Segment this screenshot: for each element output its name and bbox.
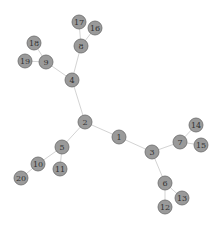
node-label: 2 — [82, 118, 87, 127]
node-label: 19 — [20, 57, 30, 66]
node-1: 1 — [112, 130, 126, 144]
node-label: 6 — [162, 179, 167, 188]
node-layer: 1234567891011121314151617181920 — [14, 15, 208, 214]
node-13: 13 — [175, 191, 189, 205]
node-label: 7 — [177, 138, 182, 147]
edge-layer — [21, 22, 201, 207]
node-17: 17 — [72, 15, 86, 29]
node-2: 2 — [78, 115, 92, 129]
node-9: 9 — [39, 55, 53, 69]
node-19: 19 — [18, 54, 32, 68]
node-6: 6 — [158, 176, 172, 190]
node-label: 1 — [116, 133, 121, 142]
node-label: 16 — [90, 24, 100, 33]
node-18: 18 — [27, 36, 41, 50]
node-3: 3 — [145, 145, 159, 159]
node-5: 5 — [55, 140, 69, 154]
node-16: 16 — [88, 21, 102, 35]
node-label: 17 — [74, 18, 84, 27]
network-graph: 1234567891011121314151617181920 — [0, 0, 223, 230]
node-label: 8 — [78, 42, 83, 51]
node-label: 9 — [43, 58, 48, 67]
node-10: 10 — [31, 157, 45, 171]
node-label: 15 — [196, 141, 206, 150]
node-label: 10 — [33, 160, 43, 169]
node-label: 20 — [16, 174, 26, 183]
node-20: 20 — [14, 171, 28, 185]
node-15: 15 — [194, 138, 208, 152]
node-label: 11 — [55, 165, 65, 174]
node-label: 18 — [29, 39, 39, 48]
node-7: 7 — [173, 135, 187, 149]
node-12: 12 — [158, 200, 172, 214]
node-4: 4 — [65, 73, 79, 87]
node-8: 8 — [74, 39, 88, 53]
node-label: 13 — [177, 194, 187, 203]
node-label: 12 — [160, 203, 170, 212]
node-14: 14 — [189, 118, 203, 132]
node-label: 14 — [191, 121, 201, 130]
node-11: 11 — [53, 162, 67, 176]
node-label: 3 — [149, 148, 154, 157]
node-label: 4 — [69, 76, 74, 85]
node-label: 5 — [59, 143, 64, 152]
